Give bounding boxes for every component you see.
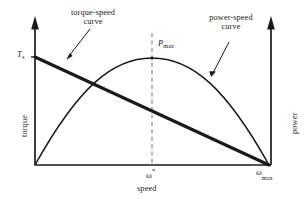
torque-curve-label-line2: curve [54,17,132,26]
omega-max-symbol: ω [256,167,262,177]
t-s-label: Ts [17,50,24,60]
p-max-subscript: max [163,42,174,49]
torque-curve-label-line1: torque-speed [71,8,115,17]
power-curve-label-line1: power-speed [209,13,252,22]
omega-star-superscript: * [152,167,156,175]
axes-frame [31,16,275,165]
omega-max-subscript: max [262,174,273,181]
power-curve-label-line2: curve [192,22,270,31]
y-axis-left-title: torque [20,115,29,137]
power-speed-curve-label: power-speed curve [192,13,270,32]
torque-speed-curve-label: torque-speed curve [54,8,132,27]
p-max-point [151,57,154,60]
omega-star-tick-label: ω* [146,169,155,180]
left-axis-arrowhead [31,16,39,30]
torque-curve-leader-arrow [66,29,90,60]
y-axis-right-title: power [290,113,299,134]
omega-max-tick-label: ωmax [256,168,273,180]
torque-power-speed-figure: torque-speed curve power-speed curve Pma… [0,0,305,199]
omega-star-symbol: ω [146,170,152,180]
t-s-subscript: s [22,53,25,60]
power-curve-leader-arrow [209,42,229,77]
p-max-label: Pmax [158,39,174,49]
x-axis-title: speed [137,184,157,193]
